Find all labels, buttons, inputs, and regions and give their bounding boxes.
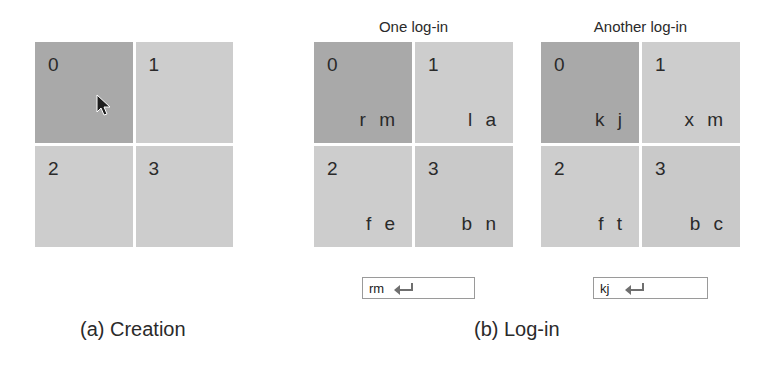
- grid-cell-0[interactable]: 0 r m: [314, 42, 412, 143]
- enter-key-icon: [623, 281, 647, 295]
- creation-grid: 0 1 2 3: [35, 42, 233, 247]
- cell-code: r m: [360, 109, 399, 131]
- enter-key-icon: [392, 281, 416, 295]
- cell-code: x m: [684, 109, 727, 131]
- title-one-login: One log-in: [314, 18, 513, 35]
- cell-index: 3: [655, 158, 666, 180]
- caption-creation: (a) Creation: [80, 318, 186, 341]
- cell-index: 2: [327, 158, 338, 180]
- cell-code: k j: [595, 109, 626, 131]
- cell-index: 1: [655, 54, 666, 76]
- grid-cell-1[interactable]: 1 x m: [642, 42, 740, 143]
- cell-index: 1: [428, 54, 439, 76]
- login-grid-2: 0 k j 1 x m 2 f t 3 b c: [541, 42, 740, 247]
- cell-index: 2: [48, 158, 59, 180]
- grid-cell-1[interactable]: 1: [136, 42, 234, 143]
- grid-cell-2[interactable]: 2: [35, 146, 133, 247]
- grid-cell-0[interactable]: 0 k j: [541, 42, 639, 143]
- cell-code: b n: [462, 213, 500, 235]
- cell-index: 0: [48, 54, 59, 76]
- login-grid-1: 0 r m 1 l a 2 f e 3 b n: [314, 42, 513, 247]
- login-input-1[interactable]: rm: [362, 277, 475, 299]
- cell-index: 2: [554, 158, 565, 180]
- input-value: rm: [369, 281, 384, 296]
- title-another-login: Another log-in: [541, 18, 740, 35]
- cell-code: l a: [468, 109, 500, 131]
- grid-cell-1[interactable]: 1 l a: [415, 42, 513, 143]
- grid-cell-3[interactable]: 3 b n: [415, 146, 513, 247]
- grid-cell-3[interactable]: 3: [136, 146, 234, 247]
- grid-cell-0[interactable]: 0: [35, 42, 133, 143]
- cell-index: 3: [149, 158, 160, 180]
- cell-index: 0: [554, 54, 565, 76]
- cell-code: f t: [598, 213, 626, 235]
- grid-cell-2[interactable]: 2 f t: [541, 146, 639, 247]
- input-value: kj: [600, 281, 609, 296]
- cell-code: b c: [690, 213, 727, 235]
- grid-cell-2[interactable]: 2 f e: [314, 146, 412, 247]
- cell-index: 1: [149, 54, 160, 76]
- mouse-pointer-icon: [95, 94, 115, 118]
- login-input-2[interactable]: kj: [593, 277, 708, 299]
- cell-code: f e: [366, 213, 399, 235]
- caption-login: (b) Log-in: [474, 318, 560, 341]
- cell-index: 0: [327, 54, 338, 76]
- cell-index: 3: [428, 158, 439, 180]
- grid-cell-3[interactable]: 3 b c: [642, 146, 740, 247]
